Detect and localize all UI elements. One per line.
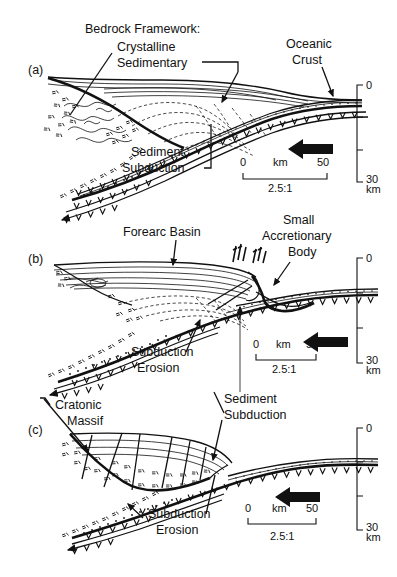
label-oceanic-crust-1: Oceanic bbox=[286, 37, 332, 51]
depth-top-a: 0 bbox=[366, 79, 372, 91]
depth-top-c: 0 bbox=[366, 422, 372, 434]
depth-unit-a: km bbox=[366, 183, 381, 195]
scale-right-c: 50 bbox=[306, 502, 318, 514]
label-forearc-basin: Forearc Basin bbox=[123, 225, 201, 239]
panel-b-id: (b) bbox=[28, 252, 43, 266]
scale-unit-a: km bbox=[273, 156, 288, 168]
depth-unit-b: km bbox=[366, 364, 381, 376]
figure-svg: (a) Bedrock Framework: Crystalline Sedim… bbox=[0, 0, 397, 577]
depth-unit-c: km bbox=[366, 531, 381, 543]
label-oceanic-crust-2: Crust bbox=[292, 53, 322, 67]
scale-right-a: 50 bbox=[317, 156, 329, 168]
figure-root: (a) Bedrock Framework: Crystalline Sedim… bbox=[0, 0, 397, 577]
label-sub-erosion-c2: Erosion bbox=[156, 523, 198, 537]
scale-unit-b: km bbox=[276, 338, 291, 350]
scale-exag-c: 2.5:1 bbox=[270, 530, 294, 542]
canvas-background bbox=[0, 0, 397, 577]
panel-c-id: (c) bbox=[28, 423, 43, 437]
label-small-3: Body bbox=[288, 245, 317, 259]
scale-left-b: 0 bbox=[253, 338, 259, 350]
label-sedimentary: Sedimentary bbox=[117, 56, 188, 70]
scale-left-c: 0 bbox=[245, 502, 251, 514]
label-sub-erosion-b2: Erosion bbox=[137, 361, 179, 375]
label-sed-sub-c1: Sediment bbox=[224, 392, 277, 406]
scale-exag-a: 2.5:1 bbox=[268, 182, 292, 194]
panel-a-id: (a) bbox=[28, 63, 43, 77]
label-sed-sub-c2: Subduction bbox=[224, 408, 287, 422]
label-cratonic-2: Massif bbox=[67, 414, 104, 428]
label-small-2: Accretionary bbox=[262, 229, 332, 243]
label-crystalline: Crystalline bbox=[117, 40, 175, 54]
scale-unit-c: km bbox=[272, 502, 287, 514]
label-small-1: Small bbox=[283, 213, 314, 227]
depth-top-b: 0 bbox=[366, 252, 372, 264]
scale-left-a: 0 bbox=[240, 156, 246, 168]
label-cratonic-1: Cratonic bbox=[55, 398, 102, 412]
scale-right-b: 50 bbox=[306, 338, 318, 350]
scale-exag-b: 2.5:1 bbox=[272, 363, 296, 375]
label-bedrock-framework: Bedrock Framework: bbox=[85, 22, 200, 36]
